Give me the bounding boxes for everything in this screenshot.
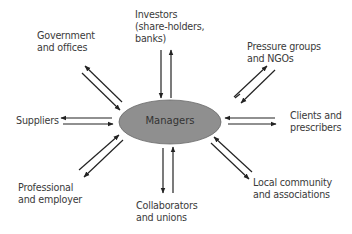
suppliers-line1: Suppliers bbox=[16, 115, 59, 127]
local-line2: and associations bbox=[253, 189, 332, 201]
collaborators-arrows bbox=[163, 147, 173, 193]
pressure-line2: and NGOs bbox=[247, 53, 321, 65]
investors-line1: Investors bbox=[135, 9, 204, 21]
clients-line2: prescribers bbox=[290, 122, 342, 134]
local-line1: Local community bbox=[253, 177, 332, 189]
investors-line2: (share-holders, bbox=[135, 21, 204, 33]
pressure-line1: Pressure groups bbox=[247, 41, 321, 53]
label-investors: Investors (share-holders, banks) bbox=[135, 9, 204, 45]
collaborators-line1: Collaborators bbox=[136, 200, 198, 212]
professional-line1: Professional bbox=[18, 182, 82, 194]
professional-arrows bbox=[79, 135, 123, 177]
label-suppliers: Suppliers bbox=[16, 115, 59, 127]
label-local: Local community and associations bbox=[253, 177, 332, 201]
government-line2: and offices bbox=[37, 42, 95, 54]
label-professional: Professional and employer bbox=[18, 182, 82, 206]
label-government: Government and offices bbox=[37, 30, 95, 54]
investors-arrows bbox=[161, 50, 171, 98]
government-arrows bbox=[82, 66, 122, 110]
local-arrows bbox=[211, 137, 252, 179]
investors-line3: banks) bbox=[135, 33, 204, 45]
pressure-arrows bbox=[234, 66, 275, 103]
label-pressure: Pressure groups and NGOs bbox=[247, 41, 321, 65]
managers-label: Managers bbox=[120, 115, 220, 126]
label-collaborators: Collaborators and unions bbox=[136, 200, 198, 224]
professional-line2: and employer bbox=[18, 194, 82, 206]
clients-arrows bbox=[225, 118, 276, 124]
clients-line1: Clients and bbox=[290, 110, 342, 122]
collaborators-line2: and unions bbox=[136, 212, 198, 224]
suppliers-arrows bbox=[61, 118, 113, 124]
label-clients: Clients and prescribers bbox=[290, 110, 342, 134]
government-line1: Government bbox=[37, 30, 95, 42]
